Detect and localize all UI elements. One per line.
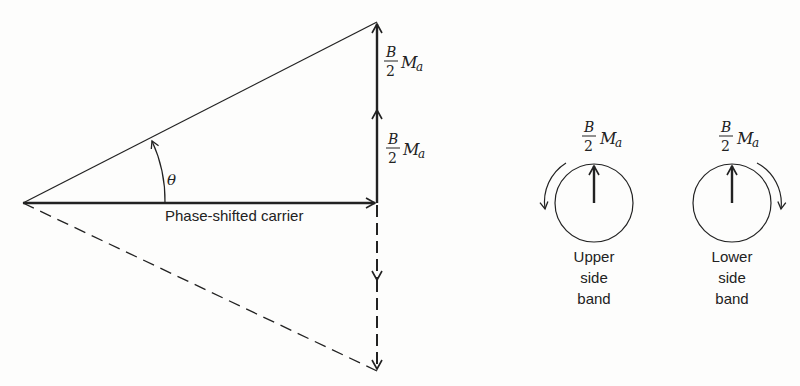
lower-sideband-label-line-3: band (715, 290, 748, 307)
svg-text:B: B (583, 119, 594, 135)
upper-sideband-phasor: B 2 M a Upper side band (544, 119, 633, 307)
svg-text:2: 2 (584, 138, 593, 154)
theta-label: θ (167, 171, 176, 189)
lower-sideband-magnitude-label: B 2 M a (719, 119, 759, 154)
svg-text:B: B (385, 44, 396, 60)
svg-text:B: B (387, 131, 398, 147)
lower-sideband-label-line-2: side (718, 269, 746, 286)
upper-sideband-label-line-3: band (577, 290, 610, 307)
carrier-label: Phase-shifted carrier (165, 207, 303, 224)
lower-sideband-phasor: B 2 M a Lower side band (693, 119, 781, 307)
upper-sideband-label-line-1: Upper (574, 248, 615, 265)
svg-text:a: a (615, 136, 622, 150)
svg-text:2: 2 (388, 150, 397, 166)
resultant-lower-dashed-line (23, 203, 377, 371)
resultant-upper-line (23, 22, 377, 203)
left-phasor-panel: θ Phase-shifted carrier B 2 M a B 2 M a (23, 22, 425, 371)
theta-arc-arrow (152, 141, 165, 203)
upper-sideband-magnitude-label: B 2 M a (582, 119, 622, 154)
clockwise-rotation-arrow (757, 163, 781, 209)
svg-text:a: a (418, 147, 425, 161)
svg-text:B: B (720, 119, 731, 135)
svg-text:a: a (752, 136, 759, 150)
lower-vector-magnitude-label: B 2 M a (386, 131, 425, 166)
lower-sideband-label-line-1: Lower (712, 248, 753, 265)
upper-sideband-label-line-2: side (580, 269, 608, 286)
svg-text:2: 2 (721, 138, 730, 154)
svg-text:2: 2 (386, 63, 395, 79)
phasor-diagram: θ Phase-shifted carrier B 2 M a B 2 M a … (0, 0, 800, 386)
upper-vector-magnitude-label: B 2 M a (384, 44, 423, 79)
svg-text:a: a (416, 60, 423, 74)
